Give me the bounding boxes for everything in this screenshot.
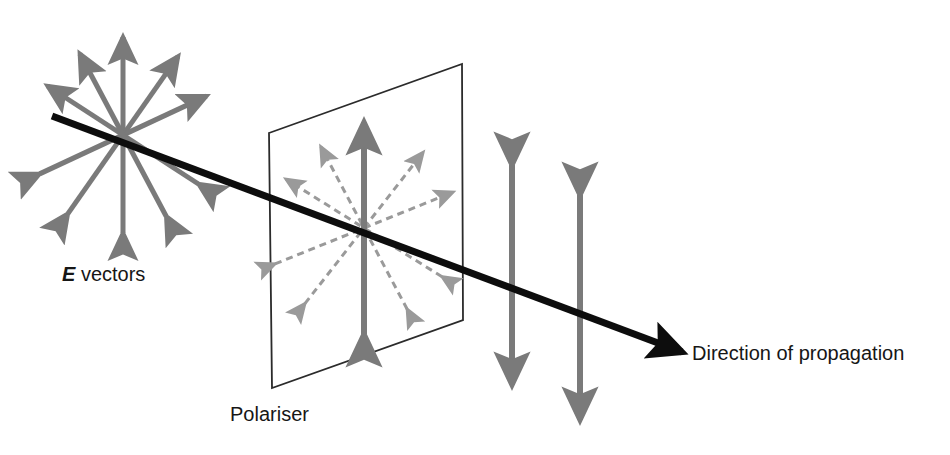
unpolarised-e-vectors [40, 37, 207, 233]
label-e-vectors-emph: E [62, 263, 76, 285]
label-direction-of-propagation: Direction of propagation [692, 342, 904, 364]
label-polariser: Polariser [230, 403, 309, 425]
figure-canvas: E vectors Polariser Direction of propaga… [0, 0, 950, 455]
label-e-vectors-rest: vectors [75, 263, 145, 285]
polarisation-figure: E vectors Polariser Direction of propaga… [0, 0, 950, 455]
label-e-vectors: E vectors [62, 263, 145, 285]
